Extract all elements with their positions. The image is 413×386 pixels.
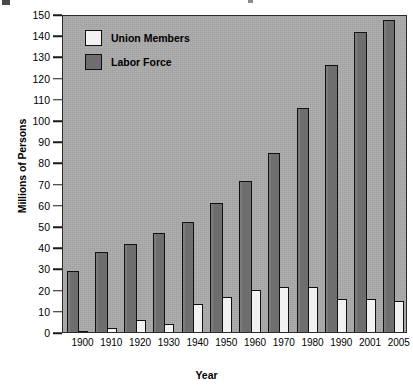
y-axis-tick-label: 150 xyxy=(10,9,50,21)
y-axis-tick-label: 120 xyxy=(10,73,50,85)
bar-labor-force xyxy=(182,222,195,333)
y-axis-tick-mark xyxy=(53,35,62,37)
plot-area: Union Members Labor Force xyxy=(62,15,407,333)
bar-labor-force xyxy=(67,271,80,333)
x-axis-tick-label: 1990 xyxy=(330,337,352,348)
y-axis-tick-mark xyxy=(53,290,62,292)
x-axis-tick-label: 2001 xyxy=(359,337,381,348)
legend-swatch-union-members xyxy=(85,30,102,46)
legend-label-union-members: Union Members xyxy=(111,32,190,44)
bar-labor-force xyxy=(354,32,367,333)
y-axis-tick-label: 100 xyxy=(10,115,50,127)
x-axis-tick-label: 1960 xyxy=(244,337,266,348)
y-axis-tick-mark xyxy=(53,205,62,207)
y-axis-tick-mark xyxy=(53,78,62,80)
bar-labor-force xyxy=(95,252,108,333)
y-axis-tick-mark xyxy=(53,57,62,59)
y-axis-tick-mark xyxy=(53,311,62,313)
y-axis-tick-mark xyxy=(53,14,62,16)
x-axis-tick-label: 1930 xyxy=(158,337,180,348)
bar-labor-force xyxy=(325,65,338,333)
x-axis-tick-label: 2005 xyxy=(388,337,410,348)
y-axis-tick-mark xyxy=(53,120,62,122)
y-axis-tick-label: 60 xyxy=(10,200,50,212)
bar-labor-force xyxy=(383,20,396,333)
y-axis-tick-label: 140 xyxy=(10,30,50,42)
bar-labor-force xyxy=(210,203,223,333)
y-axis-tick-label: 80 xyxy=(10,157,50,169)
bar-labor-force xyxy=(268,153,281,333)
x-axis-tick-label: 1950 xyxy=(215,337,237,348)
y-axis-tick-mark xyxy=(53,99,62,101)
top-edge-artifact-secondary xyxy=(248,0,253,3)
y-axis-tick-mark xyxy=(53,332,62,334)
bar-labor-force xyxy=(239,181,252,333)
x-axis-tick-label: 1900 xyxy=(71,337,93,348)
legend-item-labor-force: Labor Force xyxy=(85,54,190,70)
y-axis-tick-label: 50 xyxy=(10,221,50,233)
y-axis-tick-label: 110 xyxy=(10,94,50,106)
bar-labor-force xyxy=(153,233,166,333)
x-axis-tick-label: 1910 xyxy=(100,337,122,348)
y-axis-tick-mark xyxy=(53,184,62,186)
y-axis-tick-label: 0 xyxy=(10,327,50,339)
x-axis-tick-label: 1980 xyxy=(301,337,323,348)
x-axis-tick-label: 1970 xyxy=(273,337,295,348)
legend-swatch-labor-force xyxy=(85,54,102,70)
top-edge-artifact xyxy=(2,0,10,5)
y-axis-tick-label: 40 xyxy=(10,242,50,254)
y-axis-tick-label: 70 xyxy=(10,179,50,191)
bar-labor-force xyxy=(124,244,137,333)
y-axis-tick-mark xyxy=(53,141,62,143)
y-axis-tick-mark xyxy=(53,269,62,271)
chart-container: Millions of Persons Year 010203040506070… xyxy=(0,0,413,386)
x-axis-title: Year xyxy=(0,369,413,381)
bar-labor-force xyxy=(297,108,310,333)
x-axis-tick-label: 1940 xyxy=(186,337,208,348)
y-axis-tick-label: 130 xyxy=(10,51,50,63)
y-axis-tick-label: 90 xyxy=(10,136,50,148)
y-axis-tick-label: 20 xyxy=(10,285,50,297)
y-axis-tick-label: 30 xyxy=(10,263,50,275)
y-axis-tick-mark xyxy=(53,247,62,249)
chart-legend: Union Members Labor Force xyxy=(85,30,190,78)
y-axis-tick-mark xyxy=(53,226,62,228)
y-axis-tick-label: 10 xyxy=(10,306,50,318)
legend-item-union-members: Union Members xyxy=(85,30,190,46)
y-axis-tick-mark xyxy=(53,163,62,165)
x-axis-tick-label: 1920 xyxy=(129,337,151,348)
legend-label-labor-force: Labor Force xyxy=(111,56,172,68)
